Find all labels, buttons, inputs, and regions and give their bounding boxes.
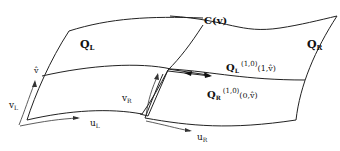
uL-label: uL xyxy=(90,118,100,129)
vL-label: vL xyxy=(8,100,18,111)
right-patch-bottom-edge xyxy=(145,118,296,126)
uR-label: uR xyxy=(197,132,208,143)
left-patch-bottom-edge xyxy=(27,111,142,120)
left-patch-left-edge xyxy=(27,31,69,120)
vhat-label: v̂ xyxy=(33,66,39,75)
derivative-left-label: QL(1,0)(1,v̂) xyxy=(226,60,276,74)
uL-arrowhead xyxy=(73,116,80,120)
vR-arrowhead xyxy=(154,73,159,80)
diagram-canvas: QL QR C(v) v̂ vL uL vR uR QL(1,0)(1,v̂) … xyxy=(0,0,340,151)
uR-arrow xyxy=(146,121,190,131)
vL-arrowhead xyxy=(32,80,37,87)
patch-label-right: QR xyxy=(307,38,323,52)
surface-patches-diagram: QL QR C(v) v̂ vL uL vR uR QL(1,0)(1,v̂) … xyxy=(0,0,340,151)
left-patch-top-edge xyxy=(69,17,203,31)
uR-arrowhead xyxy=(185,128,192,132)
patch-label-left: QL xyxy=(80,38,95,52)
boundary-curve-label: C(v) xyxy=(204,15,227,26)
right-patch-right-edge xyxy=(296,16,337,120)
derivative-right-label: QR(1,0)(0,v̂) xyxy=(207,87,258,101)
boundary-strip-inner xyxy=(145,74,163,118)
vR-label: vR xyxy=(121,93,132,104)
